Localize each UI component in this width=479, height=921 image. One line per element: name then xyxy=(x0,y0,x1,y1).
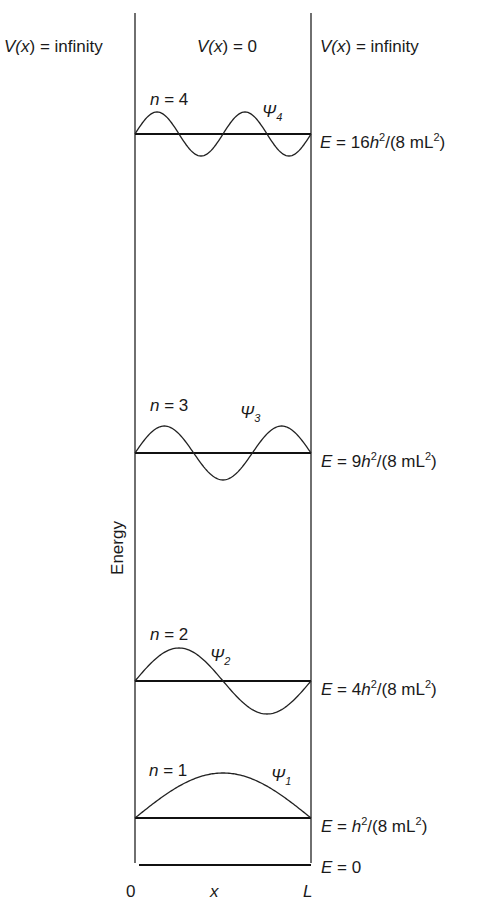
eq: = xyxy=(332,858,351,877)
region-label-left: V(x) = infinity xyxy=(4,38,103,55)
eq: = xyxy=(159,90,178,109)
x-var: x xyxy=(214,37,223,56)
h-symbol: h xyxy=(361,452,370,471)
energy-label-2: E = 4h2/(8 mL2) xyxy=(321,681,437,698)
psi-symbol: Ψ xyxy=(262,102,276,121)
eq: = xyxy=(332,817,351,836)
psi-label-2: Ψ2 xyxy=(210,647,230,664)
h-symbol: h xyxy=(370,133,379,152)
e-value: 0 xyxy=(352,858,361,877)
v-symbol: V( xyxy=(320,37,337,56)
denominator: /(8 mL xyxy=(367,817,415,836)
e-symbol: E xyxy=(320,133,331,152)
eq: = xyxy=(159,625,178,644)
x-var: x xyxy=(337,37,346,56)
psi-subscript: 2 xyxy=(224,655,230,667)
paren: ) xyxy=(440,133,446,152)
paren: ) xyxy=(431,452,437,471)
e-symbol: E xyxy=(321,858,332,877)
n-label-4: n = 4 xyxy=(150,91,188,108)
e-symbol: E xyxy=(321,452,332,471)
psi-subscript: 3 xyxy=(254,412,260,424)
region-label-middle: V(x) = 0 xyxy=(197,38,257,55)
eq: = xyxy=(332,680,351,699)
v-value: ) = 0 xyxy=(223,37,258,56)
denominator: /(8 mL xyxy=(377,680,425,699)
v-symbol: V( xyxy=(197,37,214,56)
psi-symbol: Ψ xyxy=(271,766,285,785)
n-label-3: n = 3 xyxy=(150,397,188,414)
paren: ) xyxy=(422,817,428,836)
h-symbol: h xyxy=(361,680,370,699)
psi-label-3: Ψ3 xyxy=(240,404,260,421)
coef: 16 xyxy=(351,133,370,152)
e-symbol: E xyxy=(321,817,332,836)
psi-subscript: 4 xyxy=(276,111,282,123)
energy-label-1: E = h2/(8 mL2) xyxy=(321,818,427,835)
axis-label-L: L xyxy=(303,883,312,900)
coef: 4 xyxy=(352,680,361,699)
energy-label-0: E = 0 xyxy=(321,859,361,876)
eq: = xyxy=(158,761,177,780)
e-symbol: E xyxy=(321,680,332,699)
h-symbol: h xyxy=(352,817,361,836)
eq: = xyxy=(331,133,350,152)
energy-axis-label: Energy xyxy=(108,521,128,575)
x-var: x xyxy=(21,37,30,56)
n-value: 1 xyxy=(178,761,187,780)
n-label-2: n = 2 xyxy=(150,626,188,643)
eq: = xyxy=(159,396,178,415)
psi-subscript: 1 xyxy=(285,775,291,787)
coef: 9 xyxy=(352,452,361,471)
axis-label-x: x xyxy=(210,883,219,900)
n-value: 3 xyxy=(179,396,188,415)
denominator: /(8 mL xyxy=(377,452,425,471)
region-label-right: V(x) = infinity xyxy=(320,38,419,55)
n-value: 2 xyxy=(179,625,188,644)
energy-label-4: E = 16h2/(8 mL2) xyxy=(320,134,445,151)
v-value: ) = infinity xyxy=(346,37,419,56)
energy-label-3: E = 9h2/(8 mL2) xyxy=(321,453,437,470)
psi-symbol: Ψ xyxy=(210,646,224,665)
denominator: /(8 mL xyxy=(385,133,433,152)
eq: = xyxy=(332,452,351,471)
psi-label-4: Ψ4 xyxy=(262,103,282,120)
n-value: 4 xyxy=(179,90,188,109)
psi-symbol: Ψ xyxy=(240,403,254,422)
n-label-1: n = 1 xyxy=(149,762,187,779)
axis-label-zero: 0 xyxy=(126,883,135,900)
paren: ) xyxy=(431,680,437,699)
v-symbol: V( xyxy=(4,37,21,56)
v-value: ) = infinity xyxy=(30,37,103,56)
psi-label-1: Ψ1 xyxy=(271,767,291,784)
